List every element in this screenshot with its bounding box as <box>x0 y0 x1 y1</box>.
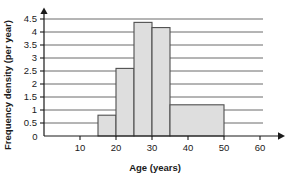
bar-30-35 <box>152 28 170 136</box>
x-tick-label-20: 20 <box>111 142 122 153</box>
y-tick-label-1.5: 1.5 <box>24 91 37 102</box>
y-tick-label-2.5: 2.5 <box>24 65 37 76</box>
bar-15-20 <box>98 115 116 136</box>
bar-20-25 <box>116 68 134 136</box>
y-tick-label-3: 3 <box>32 52 37 63</box>
histogram-chart: 0102030405060 0.511.522.533.544.5 Age (y… <box>0 0 288 177</box>
x-tick-label-0: 0 <box>32 131 37 142</box>
x-tick-label-10: 10 <box>75 142 86 153</box>
x-tick-label-30: 30 <box>147 142 158 153</box>
bar-35-50 <box>170 105 224 136</box>
y-tick-label-3.5: 3.5 <box>24 39 37 50</box>
x-tick-label-50: 50 <box>219 142 230 153</box>
y-axis-title: Frequency density (per year) <box>2 20 13 150</box>
x-axis-title: Age (years) <box>129 162 181 173</box>
bar-25-30 <box>134 22 152 136</box>
y-tick-label-2: 2 <box>32 78 37 89</box>
y-tick-label-4: 4 <box>32 26 37 37</box>
x-tick-label-40: 40 <box>183 142 194 153</box>
x-tick-label-60: 60 <box>255 142 266 153</box>
y-tick-label-0.5: 0.5 <box>24 117 37 128</box>
y-tick-label-1: 1 <box>32 104 37 115</box>
y-tick-label-4.5: 4.5 <box>24 13 37 24</box>
chart-canvas: 0102030405060 0.511.522.533.544.5 Age (y… <box>0 0 288 177</box>
